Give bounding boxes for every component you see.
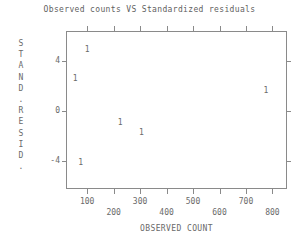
x-axis-tick-top	[220, 26, 221, 31]
y-axis-tick-right	[287, 61, 291, 62]
data-point: 1	[85, 46, 90, 54]
y-axis-label-char: T	[16, 49, 26, 60]
x-axis-tick-top	[87, 26, 88, 31]
scatter-plot-figure: Observed counts VS Standardized residual…	[0, 0, 299, 247]
y-axis-label-char: A	[16, 60, 26, 71]
x-axis-tick-label: 800	[265, 209, 279, 217]
y-axis-label-char: R	[16, 105, 26, 116]
y-axis-label-char: E	[16, 116, 26, 127]
x-axis-tick-top	[167, 26, 168, 31]
x-axis-tick-label: 700	[239, 198, 253, 206]
y-axis-label: STAND.RESID.	[16, 38, 26, 172]
x-axis-tick-label: 400	[159, 209, 173, 217]
data-point: 1	[263, 87, 268, 95]
x-axis-tick-bottom	[246, 189, 247, 194]
y-axis-tick-left	[62, 61, 66, 62]
data-point: 1	[139, 129, 144, 137]
x-axis-tick-top	[193, 26, 194, 31]
chart-title: Observed counts VS Standardized residual…	[0, 5, 299, 14]
x-axis-tick-bottom	[220, 189, 221, 194]
y-axis-label-char: N	[16, 72, 26, 83]
y-axis-tick-label: 0	[36, 107, 60, 115]
plot-area: 111111	[66, 31, 287, 189]
x-axis-tick-top	[114, 26, 115, 31]
y-axis-label-char: S	[16, 128, 26, 139]
x-axis-tick-label: 500	[186, 198, 200, 206]
x-axis-tick-top	[140, 26, 141, 31]
x-axis-tick-bottom	[193, 189, 194, 194]
y-axis-tick-right	[287, 111, 291, 112]
x-axis-tick-label: 600	[212, 209, 226, 217]
y-axis-tick-label: -4	[36, 157, 60, 165]
y-axis-label-char: D	[16, 150, 26, 161]
x-axis-tick-label: 300	[133, 198, 147, 206]
y-axis-tick-left	[62, 111, 66, 112]
x-axis-label: OBSERVED COUNT	[66, 224, 287, 233]
data-point: 1	[78, 159, 83, 167]
x-axis-tick-bottom	[87, 189, 88, 194]
y-axis-label-char: S	[16, 38, 26, 49]
y-axis-tick-left	[62, 161, 66, 162]
y-axis-label-char: I	[16, 139, 26, 150]
x-axis-tick-bottom	[167, 189, 168, 194]
x-axis-tick-bottom	[140, 189, 141, 194]
x-axis-tick-label: 200	[106, 209, 120, 217]
x-axis-tick-top	[246, 26, 247, 31]
data-point: 1	[73, 75, 78, 83]
y-axis-tick-right	[287, 161, 291, 162]
y-axis-label-char: D	[16, 83, 26, 94]
y-axis-label-char: .	[16, 161, 26, 172]
y-axis-tick-label: 4	[36, 57, 60, 65]
x-axis-tick-bottom	[272, 189, 273, 194]
data-point: 1	[118, 119, 123, 127]
x-axis-tick-top	[272, 26, 273, 31]
x-axis-tick-label: 100	[80, 198, 94, 206]
x-axis-tick-bottom	[114, 189, 115, 194]
y-axis-label-char: .	[16, 94, 26, 105]
